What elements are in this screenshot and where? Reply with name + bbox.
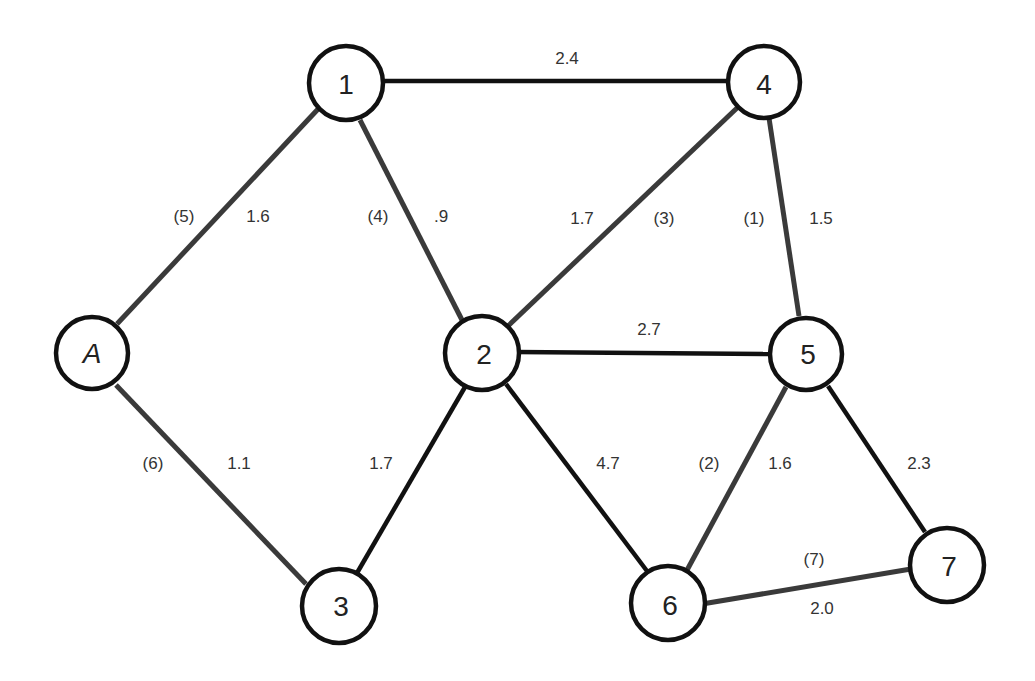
edge-order-2-4: (3) xyxy=(654,209,675,228)
node-5-label: 5 xyxy=(800,339,816,370)
node-1-label: 1 xyxy=(338,69,354,100)
node-1: 1 xyxy=(309,46,383,120)
edge-2-5 xyxy=(516,352,772,354)
node-6: 6 xyxy=(631,566,705,640)
graph-canvas: 2.4 (5) 1.6 (4) .9 1.7 (3) (1) 1.5 2.7 (… xyxy=(0,0,1035,681)
edge-weight-2-3: 1.7 xyxy=(369,454,393,473)
edge-order-5-6: (2) xyxy=(699,454,720,473)
node-7: 7 xyxy=(910,528,984,602)
edge-2-3 xyxy=(357,387,465,573)
edge-2-6 xyxy=(506,384,647,571)
node-3: 3 xyxy=(302,569,376,643)
edge-weight-A-3: 1.1 xyxy=(227,454,251,473)
node-5: 5 xyxy=(770,318,842,390)
edge-2-4 xyxy=(508,108,737,326)
edge-weight-1-4: 2.4 xyxy=(555,49,579,68)
edge-weight-6-7: 2.0 xyxy=(810,599,834,618)
edge-6-7 xyxy=(702,569,911,604)
edge-weight-5-7: 2.3 xyxy=(907,454,931,473)
node-3-label: 3 xyxy=(333,591,349,622)
edge-weight-5-6: 1.6 xyxy=(768,454,792,473)
edge-weight-2-5: 2.7 xyxy=(637,320,661,339)
edge-A-3 xyxy=(116,385,306,584)
edge-weight-1-2: .9 xyxy=(434,207,448,226)
node-2-label: 2 xyxy=(476,339,492,370)
node-A: A xyxy=(56,317,128,389)
edge-4-5 xyxy=(769,118,799,316)
edge-order-A-3: (6) xyxy=(143,454,164,473)
edge-order-4-5: (1) xyxy=(744,209,765,228)
node-2: 2 xyxy=(445,316,519,390)
edge-order-1-2: (4) xyxy=(368,207,389,226)
edge-5-6 xyxy=(686,387,786,572)
edge-weight-4-5: 1.5 xyxy=(809,209,833,228)
node-A-label: A xyxy=(81,338,102,369)
nodes: 1 4 A 2 5 3 6 7 xyxy=(56,46,984,643)
edge-order-6-7: (7) xyxy=(804,550,825,569)
edge-weight-2-4: 1.7 xyxy=(570,209,594,228)
node-4-label: 4 xyxy=(756,69,772,100)
edge-weight-A-1: 1.6 xyxy=(246,207,270,226)
node-7-label: 7 xyxy=(941,551,957,582)
edge-A-1 xyxy=(117,108,319,324)
edge-order-A-1: (5) xyxy=(174,207,195,226)
edge-weight-2-6: 4.7 xyxy=(596,454,620,473)
node-4: 4 xyxy=(728,46,800,118)
node-6-label: 6 xyxy=(662,590,678,621)
